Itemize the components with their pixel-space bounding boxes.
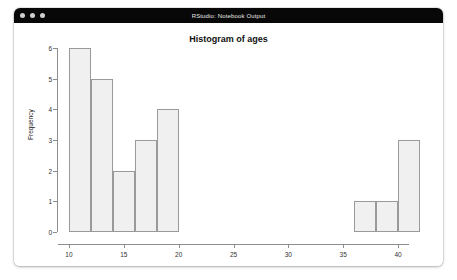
x-axis-tick bbox=[288, 244, 289, 248]
y-axis-tick-label: 4 bbox=[32, 106, 52, 113]
y-axis-tick-label: 3 bbox=[32, 137, 52, 144]
x-axis bbox=[58, 244, 409, 245]
x-axis-tick-label: 40 bbox=[394, 251, 401, 258]
zoom-button[interactable] bbox=[40, 13, 45, 18]
notebook-output-window: RStudio: Notebook Output Histogram of ag… bbox=[14, 8, 443, 266]
chart-title: Histogram of ages bbox=[14, 34, 443, 44]
window-title: RStudio: Notebook Output bbox=[14, 13, 443, 19]
x-axis-tick-label: 25 bbox=[230, 251, 237, 258]
histogram-bar bbox=[157, 109, 179, 232]
y-axis-tick bbox=[53, 79, 57, 80]
y-axis-tick bbox=[53, 48, 57, 49]
y-axis-tick-label: 2 bbox=[32, 167, 52, 174]
histogram-bar bbox=[354, 201, 376, 232]
x-axis-title: ages bbox=[14, 264, 443, 266]
plot-area bbox=[58, 48, 420, 232]
y-axis-tick-label: 0 bbox=[32, 229, 52, 236]
y-axis-tick bbox=[53, 232, 57, 233]
x-axis-tick bbox=[179, 244, 180, 248]
histogram-bars bbox=[58, 48, 420, 232]
x-axis-tick bbox=[69, 244, 70, 248]
histogram-bar bbox=[91, 79, 113, 232]
window-titlebar[interactable]: RStudio: Notebook Output bbox=[14, 8, 443, 23]
x-axis-tick bbox=[124, 244, 125, 248]
screen: RStudio: Notebook Output Histogram of ag… bbox=[0, 0, 457, 280]
x-axis-tick-label: 15 bbox=[120, 251, 127, 258]
y-axis-tick bbox=[53, 201, 57, 202]
histogram-bar bbox=[113, 171, 135, 232]
y-axis-tick-label: 6 bbox=[32, 45, 52, 52]
histogram-bar bbox=[69, 48, 91, 232]
y-axis-tick bbox=[53, 140, 57, 141]
histogram-bar bbox=[398, 140, 420, 232]
x-axis-tick bbox=[343, 244, 344, 248]
window-controls[interactable] bbox=[20, 8, 45, 23]
y-axis-tick-label: 5 bbox=[32, 75, 52, 82]
x-axis-tick-label: 20 bbox=[175, 251, 182, 258]
x-axis-tick bbox=[234, 244, 235, 248]
histogram-bar bbox=[135, 140, 157, 232]
minimize-button[interactable] bbox=[30, 13, 35, 18]
x-axis-tick-label: 30 bbox=[285, 251, 292, 258]
histogram-bar bbox=[376, 201, 398, 232]
y-axis-tick bbox=[53, 171, 57, 172]
close-button[interactable] bbox=[20, 13, 25, 18]
plot-canvas: Histogram of ages Frequency ages 0123456… bbox=[14, 23, 443, 266]
x-axis-tick-label: 35 bbox=[340, 251, 347, 258]
x-axis-tick bbox=[398, 244, 399, 248]
x-axis-tick-label: 10 bbox=[65, 251, 72, 258]
y-axis-title: Frequency bbox=[27, 109, 34, 140]
y-axis-tick-label: 1 bbox=[32, 198, 52, 205]
y-axis-tick bbox=[53, 109, 57, 110]
